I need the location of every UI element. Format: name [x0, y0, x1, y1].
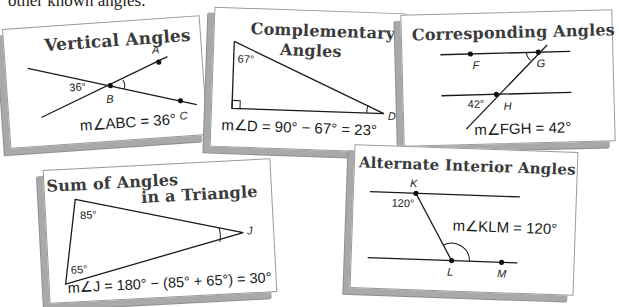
card-vertical-angles: Vertical Angles A B C 36° m∠ABC = 36°	[2, 15, 208, 149]
top-angle-label: 85°	[80, 208, 97, 221]
card-alternate-interior-angles: Alternate Interior Angles K 120° L M m∠K…	[350, 144, 579, 296]
angle-label: 36°	[69, 80, 86, 93]
point-label-g: G	[536, 57, 545, 69]
point-label-f: F	[472, 59, 479, 71]
equation: m∠KLM = 120°	[452, 217, 557, 239]
point-label-a: A	[151, 43, 159, 55]
card-corresponding-angles: Corresponding Angles F G H 42° m∠FGH = 4…	[400, 9, 615, 147]
point-label-j: J	[247, 224, 253, 236]
point-label-d: D	[388, 110, 396, 122]
bottom-angle-label: 65°	[71, 263, 88, 276]
equation: m∠FGH = 42°	[474, 118, 571, 139]
angle-label: 42°	[468, 98, 485, 110]
point-label-b: B	[106, 92, 114, 104]
point-label-l: L	[447, 265, 454, 277]
point-label-c: C	[179, 109, 188, 122]
card-complementary-angles: Complementary Angles 67° D m∠D = 90° − 6…	[210, 7, 407, 154]
angle-label: 120°	[391, 196, 414, 209]
card-triangle-sum: Sum of Angles in a Triangle 85° 65° J m∠…	[43, 158, 278, 304]
point-label-h: H	[504, 100, 512, 112]
point-label-m: M	[497, 267, 507, 279]
angle-label: 67°	[237, 53, 254, 66]
intro-text: other known angles.	[8, 0, 145, 11]
point-label-k: K	[410, 177, 418, 189]
